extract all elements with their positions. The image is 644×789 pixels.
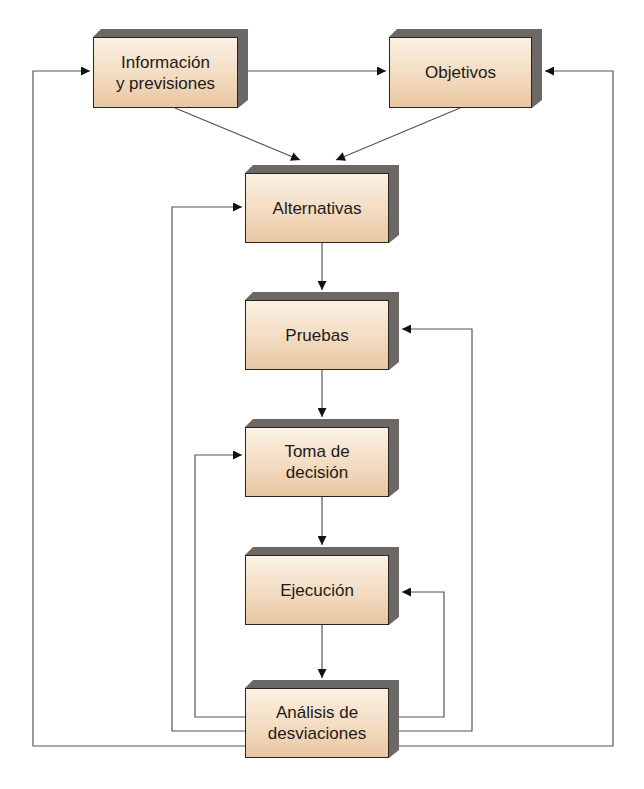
node-label: Información y previsiones [116,52,215,94]
node-label: Objetivos [425,62,496,83]
node-pruebas: Pruebas [245,300,389,370]
node-ejecucion: Ejecución [245,555,389,625]
node-label: Análisis de desviaciones [268,702,366,744]
node-label: Ejecución [280,580,354,601]
arrow-objetivos-to-alternativas [336,108,460,160]
feedback-to-pruebas [399,329,472,731]
node-label: Toma de decisión [284,441,349,483]
node-label: Pruebas [285,325,348,346]
node-alternativas: Alternativas [245,173,389,243]
node-objetivos: Objetivos [389,37,532,108]
feedback-to-alternativas [172,207,245,731]
connectors-layer [0,0,644,789]
feedback-to-ejecucion [399,592,444,717]
box-shadows [93,29,542,758]
node-informacion: Información y previsiones [93,37,238,108]
node-toma-de-decision: Toma de decisión [245,427,389,497]
node-label: Alternativas [273,198,362,219]
node-analisis-de-desviaciones: Análisis de desviaciones [245,688,389,758]
arrow-info-to-alternativas [175,108,300,160]
feedback-to-informacion [33,71,245,746]
feedback-to-objetivos [399,71,613,746]
planning-process-diagram: Información y previsiones Objetivos Alte… [0,0,644,789]
feedback-to-toma [195,455,245,717]
